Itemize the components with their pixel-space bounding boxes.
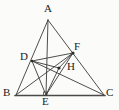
vertex-point-H — [57, 66, 60, 69]
geometry-diagram: A B C D E F H — [0, 0, 119, 110]
point-label-D: D — [20, 51, 28, 62]
segment-EH — [46, 68, 59, 95]
diagram-canvas — [0, 0, 119, 110]
segment-AC — [48, 20, 104, 95]
point-label-H: H — [67, 61, 75, 72]
point-label-A: A — [44, 3, 52, 14]
segment-layer — [16, 20, 104, 95]
point-label-B: B — [3, 87, 10, 98]
point-label-F: F — [74, 41, 80, 52]
point-label-E: E — [42, 96, 49, 107]
point-label-C: C — [106, 87, 113, 98]
vertex-point-D — [31, 60, 33, 62]
segment-DE — [32, 61, 46, 95]
